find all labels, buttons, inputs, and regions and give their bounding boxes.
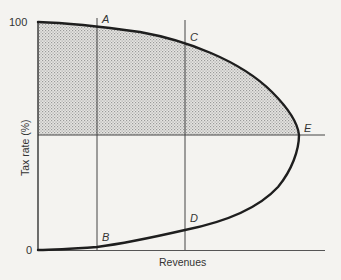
y-axis-label: Tax rate (%): [19, 119, 31, 176]
y-tick-100: 100: [9, 16, 27, 28]
point-label-c: C: [190, 31, 198, 43]
point-label-a: A: [101, 13, 109, 25]
point-label-d: D: [190, 212, 198, 224]
point-label-e: E: [304, 122, 312, 134]
y-tick-0: 0: [26, 244, 32, 256]
x-axis-label: Revenues: [159, 256, 206, 268]
point-label-b: B: [102, 231, 109, 243]
laffer-chart: 100 0 A C E D B Revenues Tax rate (%): [0, 0, 341, 280]
